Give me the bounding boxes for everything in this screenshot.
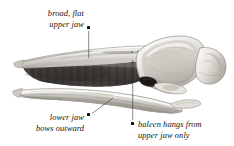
label-lower-jaw-line-1: lower jaw [30, 113, 84, 124]
label-baleen: baleen hangs from upper jaw only [138, 120, 230, 141]
label-upper-jaw-line-2: upper jaw [34, 20, 84, 31]
label-upper-jaw-line-1: broad, flat [34, 9, 84, 20]
label-baleen-line-2: upper jaw only [138, 131, 230, 142]
label-lower-jaw-line-2: bows outward [30, 124, 84, 135]
label-lower-jaw: lower jaw bows outward [30, 113, 84, 134]
label-upper-jaw: broad, flat upper jaw [34, 9, 84, 30]
label-baleen-line-1: baleen hangs from [138, 120, 230, 131]
illustration-page: broad, flat upper jaw lower jaw bows out… [0, 0, 234, 146]
